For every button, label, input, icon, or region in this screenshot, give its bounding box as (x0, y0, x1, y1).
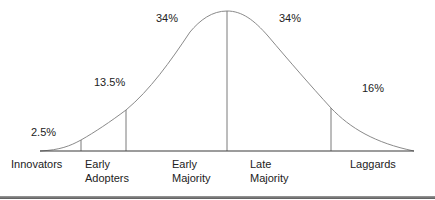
percentage-laggards: 16% (362, 82, 384, 95)
category-innovators: Innovators (11, 157, 62, 171)
percentage-early-majority: 34% (156, 12, 178, 25)
adoption-curve-diagram: 2.5% 13.5% 34% 34% 16% Innovators Early … (0, 0, 435, 200)
category-laggards-line1: Laggards (350, 157, 396, 171)
percentage-late-majority: 34% (279, 12, 301, 25)
category-early-adopters-line1: Early (85, 157, 129, 171)
category-late-majority-line1: Late (250, 157, 289, 171)
bottom-divider-rule (0, 196, 435, 199)
category-early-majority-line2: Majority (172, 171, 211, 185)
category-innovators-line1: Innovators (11, 157, 62, 171)
category-early-majority: Early Majority (172, 157, 211, 185)
percentage-innovators: 2.5% (31, 126, 56, 139)
category-early-adopters-line2: Adopters (85, 171, 129, 185)
category-late-majority-line2: Majority (250, 171, 289, 185)
category-early-majority-line1: Early (172, 157, 211, 171)
percentage-early-adopters: 13.5% (94, 76, 125, 89)
category-early-adopters: Early Adopters (85, 157, 129, 185)
category-late-majority: Late Majority (250, 157, 289, 185)
category-laggards: Laggards (350, 157, 396, 171)
